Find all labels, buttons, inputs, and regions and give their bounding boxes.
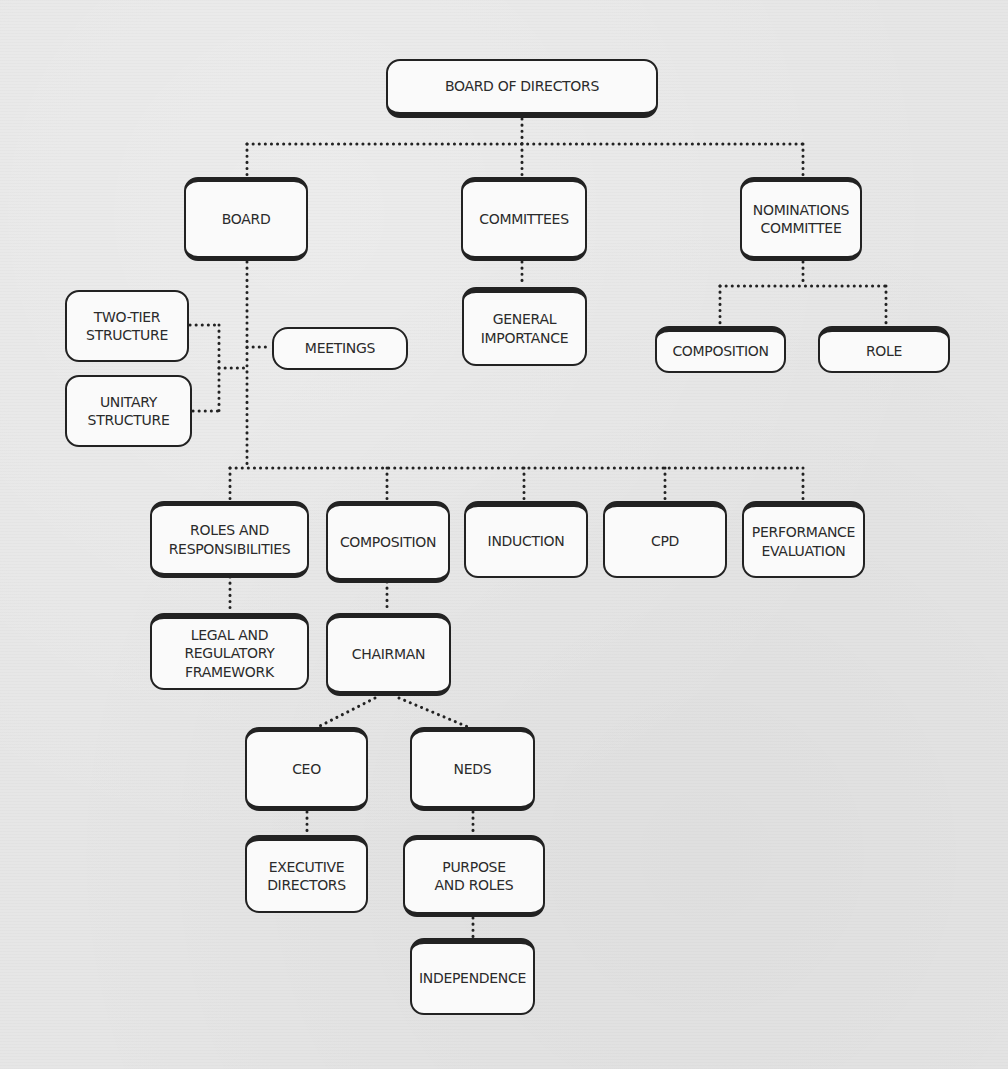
node-legal-regulatory-framework: LEGAL AND REGULATORY FRAMEWORK bbox=[150, 613, 309, 690]
node-composition: COMPOSITION bbox=[326, 501, 450, 583]
node-board: BOARD bbox=[184, 177, 308, 261]
node-ceo: CEO bbox=[245, 727, 368, 811]
node-committees: COMMITTEES bbox=[461, 177, 587, 261]
node-general-importance: GENERAL IMPORTANCE bbox=[462, 287, 587, 366]
node-unitary-structure: UNITARY STRUCTURE bbox=[65, 375, 192, 447]
node-chairman: CHAIRMAN bbox=[326, 613, 451, 696]
node-meetings: MEETINGS bbox=[272, 327, 408, 370]
node-nominations-composition: COMPOSITION bbox=[655, 326, 786, 373]
node-cpd: CPD bbox=[603, 501, 727, 578]
node-board-of-directors: BOARD OF DIRECTORS bbox=[386, 59, 658, 118]
node-two-tier-structure: TWO-TIER STRUCTURE bbox=[65, 290, 189, 362]
node-neds: NEDS bbox=[410, 727, 535, 811]
node-executive-directors: EXECUTIVE DIRECTORS bbox=[245, 835, 368, 913]
node-performance-evaluation: PERFORMANCE EVALUATION bbox=[742, 501, 865, 578]
node-purpose-and-roles: PURPOSE AND ROLES bbox=[403, 835, 545, 917]
node-independence: INDEPENDENCE bbox=[410, 938, 535, 1015]
node-induction: INDUCTION bbox=[464, 501, 588, 578]
board-of-directors-diagram: BOARD OF DIRECTORS BOARD COMMITTEES NOMI… bbox=[0, 0, 1008, 1069]
node-nominations-committee: NOMINATIONS COMMITTEE bbox=[740, 177, 862, 261]
node-roles-and-responsibilities: ROLES AND RESPONSIBILITIES bbox=[150, 501, 309, 578]
node-nominations-role: ROLE bbox=[818, 326, 950, 373]
